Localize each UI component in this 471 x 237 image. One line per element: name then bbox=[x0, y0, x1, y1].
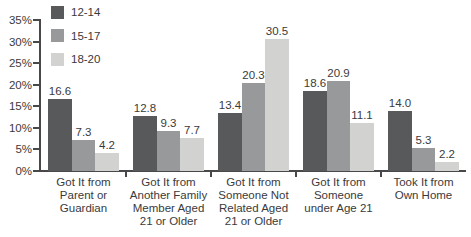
legend-swatch-icon bbox=[51, 6, 64, 19]
bar-value-label: 7.3 bbox=[76, 126, 92, 138]
bar-value-label: 9.3 bbox=[161, 117, 177, 129]
bar-value-label: 20.3 bbox=[242, 69, 264, 81]
y-tick-label: 20% bbox=[0, 78, 32, 92]
bar-slot: 20.3 bbox=[242, 20, 266, 171]
legend-swatch-icon bbox=[51, 29, 64, 42]
bar-slot: 12.8 bbox=[133, 20, 157, 171]
category-label-1: Got It from Parent or Guardian bbox=[41, 176, 126, 228]
legend-item-18-20: 18-20 bbox=[51, 52, 100, 66]
y-tick-label: 25% bbox=[0, 56, 32, 70]
category-label-2: Got It from Another Family Member Aged 2… bbox=[126, 176, 211, 228]
legend-item-12-14: 12-14 bbox=[51, 5, 100, 19]
y-tick-label: 35% bbox=[0, 13, 32, 27]
legend-label: 15-17 bbox=[71, 30, 100, 42]
legend-label: 18-20 bbox=[71, 53, 100, 65]
bar-value-label: 7.7 bbox=[184, 124, 200, 136]
bar-15-17-cat4 bbox=[327, 81, 351, 171]
bar-group-2: 12.89.37.7 bbox=[126, 20, 211, 171]
bar-18-20-cat1 bbox=[95, 153, 119, 171]
chart-legend: 12-1415-1718-20 bbox=[51, 5, 100, 76]
y-tick-label: 5% bbox=[0, 142, 32, 156]
bar-18-20-cat2 bbox=[180, 138, 204, 171]
y-tick-label: 10% bbox=[0, 121, 32, 135]
bar-value-label: 12.8 bbox=[134, 102, 156, 114]
plot-area: 16.67.34.212.89.37.713.420.330.518.620.9… bbox=[41, 20, 466, 171]
y-tick-label: 30% bbox=[0, 35, 32, 49]
bar-slot: 7.7 bbox=[180, 20, 204, 171]
bar-12-14-cat2 bbox=[133, 116, 157, 171]
bar-15-17-cat2 bbox=[157, 131, 181, 171]
bar-18-20-cat3 bbox=[265, 39, 289, 171]
bar-slot: 13.4 bbox=[218, 20, 242, 171]
bar-value-label: 30.5 bbox=[266, 25, 288, 37]
category-axis-labels: Got It from Parent or GuardianGot It fro… bbox=[41, 176, 466, 228]
bar-12-14-cat3 bbox=[218, 113, 242, 171]
bar-value-label: 4.2 bbox=[99, 139, 115, 151]
bar-12-14-cat1 bbox=[48, 99, 72, 171]
bar-15-17-cat1 bbox=[72, 140, 96, 171]
bar-slot: 30.5 bbox=[265, 20, 289, 171]
bar-value-label: 16.6 bbox=[49, 85, 71, 97]
y-tick-label: 15% bbox=[0, 99, 32, 113]
bar-slot: 20.9 bbox=[327, 20, 351, 171]
bar-slot: 9.3 bbox=[157, 20, 181, 171]
bar-12-14-cat5 bbox=[388, 111, 412, 171]
legend-item-15-17: 15-17 bbox=[51, 29, 100, 43]
bar-slot: 18.6 bbox=[303, 20, 327, 171]
bar-12-14-cat4 bbox=[303, 91, 327, 171]
legend-label: 12-14 bbox=[71, 6, 100, 18]
bar-value-label: 5.3 bbox=[416, 134, 432, 146]
bar-slot: 2.2 bbox=[435, 20, 459, 171]
bar-group-3: 13.420.330.5 bbox=[211, 20, 296, 171]
bar-18-20-cat5 bbox=[435, 162, 459, 171]
bar-group-4: 18.620.911.1 bbox=[296, 20, 381, 171]
bar-slot: 11.1 bbox=[350, 20, 374, 171]
bar-value-label: 20.9 bbox=[327, 67, 349, 79]
bar-value-label: 2.2 bbox=[439, 148, 455, 160]
category-label-3: Got It from Someone Not Related Aged 21 … bbox=[211, 176, 296, 228]
bar-value-label: 11.1 bbox=[351, 109, 373, 121]
category-label-4: Got It from Someone under Age 21 bbox=[296, 176, 381, 228]
bar-group-5: 14.05.32.2 bbox=[381, 20, 466, 171]
bar-slot: 5.3 bbox=[412, 20, 436, 171]
bar-18-20-cat4 bbox=[350, 123, 374, 171]
bar-15-17-cat3 bbox=[242, 83, 266, 171]
bar-slot: 14.0 bbox=[388, 20, 412, 171]
category-label-5: Took It from Own Home bbox=[381, 176, 466, 228]
bar-value-label: 14.0 bbox=[389, 97, 411, 109]
bar-value-label: 18.6 bbox=[304, 77, 326, 89]
grouped-bar-chart: 0%5%10%15%20%25%30%35% 16.67.34.212.89.3… bbox=[0, 0, 471, 237]
legend-swatch-icon bbox=[51, 53, 64, 66]
bar-15-17-cat5 bbox=[412, 148, 436, 171]
y-tick-label: 0% bbox=[0, 164, 32, 178]
bar-value-label: 13.4 bbox=[219, 99, 241, 111]
